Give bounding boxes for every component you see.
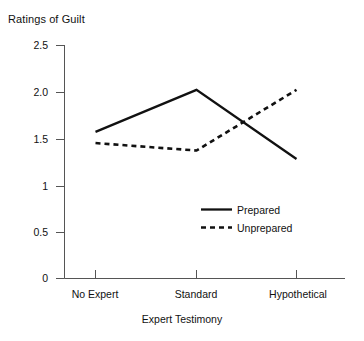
- ytick-label-2-5: 2.5: [8, 40, 48, 50]
- xtick-label-hypothetical: Hypothetical: [269, 288, 327, 300]
- ytick-label-1: 1: [8, 181, 48, 191]
- ytick-label-0-5: 0.5: [8, 227, 48, 237]
- legend-label-prepared: Prepared: [237, 204, 280, 216]
- line-chart: Ratings of Guilt 2.5 2.0 1.5: [0, 0, 364, 341]
- xtick-label-no-expert: No Expert: [72, 288, 119, 300]
- legend-label-unprepared: Unprepared: [237, 222, 292, 234]
- ytick-label-2-0: 2.0: [8, 87, 48, 97]
- series-line-prepared: [96, 90, 297, 159]
- y-axis-ticks: [56, 46, 65, 279]
- ytick-label-1-5: 1.5: [8, 134, 48, 144]
- x-axis-label: Expert Testimony: [0, 313, 364, 325]
- ytick-label-0: 0: [8, 273, 48, 283]
- xtick-label-standard: Standard: [175, 288, 218, 300]
- x-axis-ticks: [96, 270, 297, 279]
